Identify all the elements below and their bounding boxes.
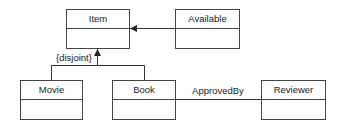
class-name-movie: Movie <box>39 84 64 95</box>
class-name-item: Item <box>89 13 108 24</box>
class-reviewer[interactable]: Reviewer <box>262 81 326 120</box>
class-item[interactable]: Item <box>67 10 130 49</box>
class-name-book: Book <box>133 84 155 95</box>
class-book[interactable]: Book <box>113 81 176 120</box>
association-approved-by: ApprovedBy <box>175 85 261 100</box>
disjoint-constraint-label: {disjoint} <box>56 52 92 63</box>
class-available[interactable]: Available <box>176 10 240 49</box>
class-name-available: Available <box>188 13 226 24</box>
generalization-item: {disjoint} <box>52 49 145 80</box>
uml-class-diagram: {disjoint} ApprovedBy Item Available Mov… <box>0 0 343 128</box>
class-movie[interactable]: Movie <box>21 81 83 120</box>
approved-by-label: ApprovedBy <box>192 85 244 96</box>
class-name-reviewer: Reviewer <box>274 84 314 95</box>
generalization-branches <box>52 66 145 81</box>
